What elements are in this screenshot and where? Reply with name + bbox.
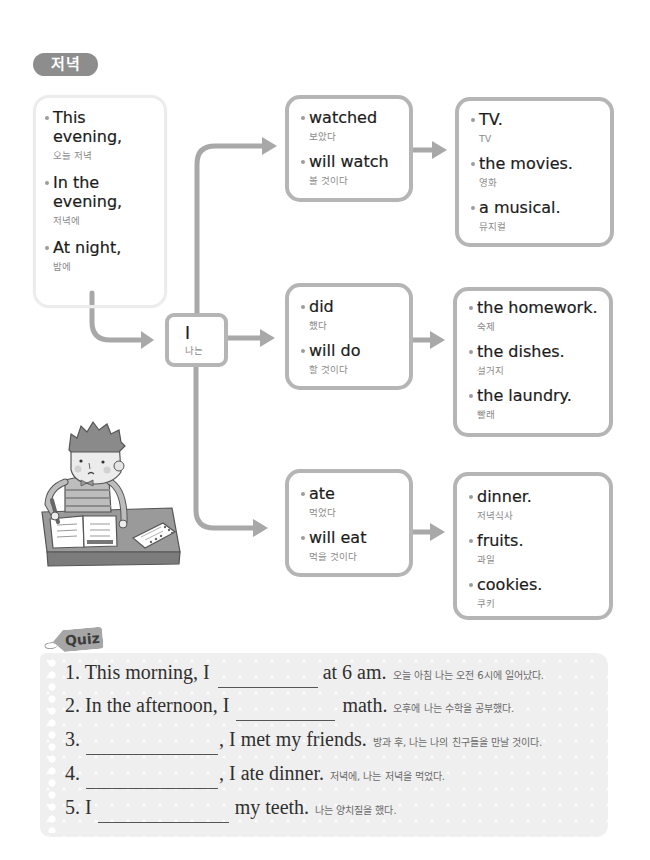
object-box-eat: dinner. 저녁식사 fruits. 과일 cookies. 쿠키	[453, 472, 613, 620]
object-item: the movies. 영화	[471, 154, 610, 189]
notebook-holes-decoration	[46, 657, 58, 833]
bullet-icon	[471, 118, 475, 122]
verb-en: will eat	[309, 528, 366, 548]
question-prefix: 1. This morning, I	[65, 661, 210, 683]
bullet-icon	[301, 536, 305, 540]
verb-item: will eat 먹을 것이다	[301, 528, 409, 563]
arrow-icon	[430, 523, 445, 541]
arrow-icon	[253, 519, 268, 537]
time-item-ko: 저녁에	[53, 214, 135, 227]
object-en: the movies.	[479, 154, 573, 174]
object-en: cookies.	[477, 575, 542, 595]
object-ko: 설거지	[477, 364, 565, 377]
time-item: In the evening, 저녁에	[45, 173, 160, 227]
question-suffix: my teeth.	[235, 796, 309, 818]
object-ko: TV	[479, 132, 503, 145]
arrow-icon	[141, 331, 154, 349]
object-item: the homework. 숙제	[469, 298, 609, 333]
object-ko: 뮤지컬	[479, 220, 561, 233]
object-en: TV.	[479, 110, 503, 130]
verb-ko: 할 것이다	[309, 363, 360, 376]
verb-ko: 먹었다	[309, 506, 336, 519]
object-ko: 숙제	[477, 320, 598, 333]
section-tag-evening: 저녁	[33, 53, 98, 76]
bullet-icon	[469, 394, 473, 398]
object-item: a musical. 뮤지컬	[471, 198, 610, 233]
object-ko: 쿠키	[477, 597, 542, 610]
quiz-question-5: 5. Imy teeth.나는 양치질을 했다.	[65, 795, 397, 819]
question-translation: 방과 후, 나는 나의 친구들을 만날 것이다.	[373, 737, 542, 748]
object-box-watch: TV. TV the movies. 영화 a musical. 뮤지컬	[455, 97, 614, 247]
time-item-en: At night,	[53, 238, 135, 257]
object-item: fruits. 과일	[469, 531, 609, 566]
verb-item: did 했다	[301, 297, 409, 332]
verb-en: watched	[309, 108, 377, 128]
quiz-label: Quiz	[64, 627, 101, 652]
arrow-icon	[432, 141, 447, 159]
verb-box-eat: ate 먹었다 will eat 먹을 것이다	[285, 469, 413, 577]
time-item-ko: 오늘 저녁	[53, 149, 135, 162]
verb-box-do: did 했다 will do 할 것이다	[285, 283, 413, 390]
answer-blank-5[interactable]	[98, 800, 229, 823]
arrow-icon	[430, 331, 445, 349]
object-en: the dishes.	[477, 342, 565, 362]
bullet-icon	[45, 116, 49, 120]
answer-blank-3[interactable]	[86, 732, 218, 755]
bullet-icon	[45, 246, 49, 250]
question-translation: 나는 양치질을 했다.	[315, 805, 397, 816]
question-prefix: 2. In the afternoon, I	[65, 694, 229, 716]
object-en: fruits.	[477, 531, 524, 551]
object-item: the dishes. 설거지	[469, 342, 609, 377]
question-suffix: at 6 am.	[323, 661, 387, 683]
quiz-question-4: 4., I ate dinner.저녁에, 나는 저녁을 먹었다.	[65, 761, 445, 785]
object-ko: 과일	[477, 553, 524, 566]
verb-ko: 볼 것이다	[309, 174, 389, 187]
answer-blank-2[interactable]	[236, 698, 335, 721]
bullet-icon	[471, 206, 475, 210]
object-box-do: the homework. 숙제 the dishes. 설거지 the lau…	[453, 287, 613, 437]
time-item-en: This evening,	[53, 108, 135, 146]
answer-blank-1[interactable]	[218, 665, 318, 688]
object-item: TV. TV	[471, 110, 610, 145]
bullet-icon	[301, 349, 305, 353]
subject-en: I	[185, 323, 224, 343]
question-suffix: math.	[342, 694, 387, 716]
question-translation: 오늘 아침 나는 오전 6시에 일어났다.	[393, 670, 544, 681]
verb-ko: 했다	[309, 319, 334, 332]
object-ko: 영화	[479, 176, 573, 189]
verb-item: ate 먹었다	[301, 484, 409, 519]
time-item-ko: 밤에	[53, 260, 135, 273]
time-expressions-box: This evening, 오늘 저녁 In the evening, 저녁에 …	[33, 95, 167, 308]
arrow-icon	[262, 137, 277, 155]
verb-item: watched 보았다	[301, 108, 409, 143]
object-en: the laundry.	[477, 386, 572, 406]
verb-en: ate	[309, 484, 336, 504]
bullet-icon	[469, 539, 473, 543]
verb-item: will do 할 것이다	[301, 341, 409, 376]
object-en: dinner.	[477, 487, 532, 507]
quiz-question-3: 3., I met my friends.방과 후, 나는 나의 친구들을 만날…	[65, 727, 542, 751]
bullet-icon	[471, 162, 475, 166]
object-item: dinner. 저녁식사	[469, 487, 609, 522]
verb-en: will watch	[309, 152, 389, 172]
bullet-icon	[469, 350, 473, 354]
verb-ko: 먹을 것이다	[309, 550, 366, 563]
question-translation: 저녁에, 나는 저녁을 먹었다.	[330, 771, 445, 782]
subject-box: I 나는	[165, 313, 228, 367]
object-item: the laundry. 빨래	[469, 386, 609, 421]
quiz-question-1: 1. This morning, Iat 6 am.오늘 아침 나는 오전 6시…	[65, 660, 544, 684]
question-suffix: , I met my friends.	[219, 728, 367, 750]
verb-ko: 보았다	[309, 130, 377, 143]
time-item: At night, 밤에	[45, 238, 160, 273]
object-item: cookies. 쿠키	[469, 575, 609, 610]
question-prefix: 4.	[65, 762, 80, 784]
object-ko: 빨래	[477, 408, 572, 421]
question-prefix: 5. I	[65, 796, 92, 818]
question-translation: 오후에 나는 수학을 공부했다.	[393, 703, 514, 714]
question-suffix: , I ate dinner.	[219, 762, 324, 784]
object-en: the homework.	[477, 298, 598, 318]
connector-subject-to-watch	[197, 146, 264, 313]
bullet-icon	[301, 492, 305, 496]
answer-blank-4[interactable]	[86, 766, 218, 789]
quiz-tag: Quiz	[43, 623, 107, 658]
